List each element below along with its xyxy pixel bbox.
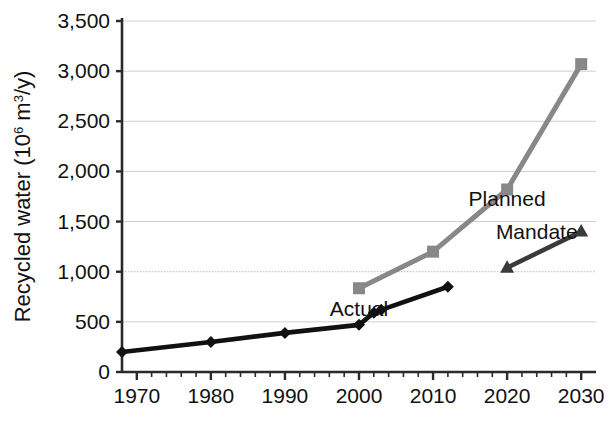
x-tick-labels: 1970198019902000201020202030 [113,384,604,407]
recycled-water-chart: 05001,0001,5002,0002,5003,0003,500 19701… [0,0,614,423]
chart-plot-area: 05001,0001,5002,0002,5003,0003,500 19701… [0,0,614,423]
y-tick-label-0: 0 [98,360,110,383]
y-axis-title-text: Recycled water (106 m3/y) [10,71,35,323]
series-label-mandate: Mandate [496,220,578,243]
y-tick-label-500: 500 [75,310,110,333]
marker-actual-2012 [442,281,454,293]
x-tick-label-1990: 1990 [262,384,309,407]
x-tick-label-1980: 1980 [188,384,235,407]
marker-actual-1968 [116,346,128,358]
marker-planned-2030 [575,58,587,70]
series-actual [116,281,454,358]
marker-planned-2000 [353,282,365,294]
x-tick-label-2000: 2000 [336,384,383,407]
y-tick-label-2500: 2,500 [57,109,110,132]
y-axis-title: Recycled water (106 m3/y) [10,71,35,323]
x-tick-label-2020: 2020 [484,384,531,407]
series-label-planned: Planned [469,187,546,210]
series-line-actual [122,287,448,352]
marker-actual-1990 [279,327,291,339]
x-tick-label-2030: 2030 [558,384,605,407]
series-line-planned [359,64,581,288]
marker-actual-1980 [205,336,217,348]
y-tick-label-3500: 3,500 [57,9,110,32]
y-tick-labels: 05001,0001,5002,0002,5003,0003,500 [57,9,110,383]
y-tick-label-2000: 2,000 [57,159,110,182]
marker-planned-2010 [427,246,439,258]
gridlines [122,21,596,322]
series-label-actual: Actual [330,297,388,320]
x-tick-label-1970: 1970 [113,384,160,407]
y-tick-label-3000: 3,000 [57,59,110,82]
y-tick-label-1000: 1,000 [57,260,110,283]
x-tick-label-2010: 2010 [410,384,457,407]
series-planned [353,58,587,294]
y-tick-label-1500: 1,500 [57,210,110,233]
